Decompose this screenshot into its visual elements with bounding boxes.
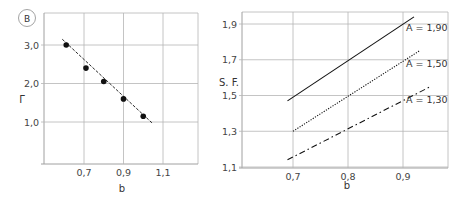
left-chart-ylabel: Γ (19, 94, 25, 105)
series-line-dotted (293, 51, 420, 131)
left-chart-tick-labels: 0,70,91,11,02,03,0 (24, 40, 171, 179)
x-tick-label: 0,7 (285, 171, 300, 182)
y-tick-label: 1,9 (222, 19, 237, 30)
y-tick-label: 1,0 (24, 117, 39, 128)
left-chart-series (62, 39, 153, 124)
figure: B 0,70,91,11,02,03,0 b Γ 0,70,80,91,11,3… (0, 0, 466, 204)
series-label: A = 1,90 (406, 22, 448, 33)
series-line-dashed-line (62, 39, 153, 124)
series-label: A = 1,30 (406, 94, 448, 105)
right-chart-tick-labels: 0,70,80,91,11,31,51,71,9 (222, 19, 411, 183)
series-label: A = 1,50 (406, 58, 448, 69)
data-point (121, 96, 127, 102)
x-tick-label: 1,1 (155, 167, 170, 178)
left-chart-xlabel: b (119, 183, 125, 194)
data-point (101, 79, 107, 85)
y-tick-label: 3,0 (24, 40, 39, 51)
left-chart-grid (41, 13, 198, 164)
panel-label-text: B (24, 14, 30, 24)
right-chart: 0,70,80,91,11,31,51,71,9 A = 1,90A = 1,5… (219, 12, 448, 191)
right-chart-grid (239, 12, 448, 168)
left-chart: 0,70,91,11,02,03,0 b Γ (19, 13, 198, 194)
y-tick-label: 2,0 (24, 78, 39, 89)
right-chart-series-labels: A = 1,90A = 1,50A = 1,30 (406, 22, 448, 105)
panel-label: B (19, 10, 36, 27)
right-chart-xlabel: b (344, 180, 350, 191)
y-tick-label: 1,5 (222, 90, 237, 101)
right-chart-ylabel: S. F. (219, 77, 239, 88)
y-tick-label: 1,1 (222, 162, 237, 173)
series-line-solid (288, 17, 415, 101)
y-tick-label: 1,7 (222, 54, 237, 65)
data-point (83, 65, 89, 71)
x-tick-label: 0,9 (395, 171, 410, 182)
x-tick-label: 0,7 (76, 167, 91, 178)
x-tick-label: 0,9 (116, 167, 131, 178)
y-tick-label: 1,3 (222, 126, 237, 137)
right-chart-series (288, 17, 431, 160)
